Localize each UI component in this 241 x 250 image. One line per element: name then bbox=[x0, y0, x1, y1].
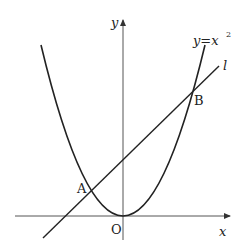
curve-exponent: 2 bbox=[226, 30, 231, 39]
graph-figure: y x O y=x 2 l A B bbox=[0, 0, 241, 250]
y-axis-label: y bbox=[110, 15, 119, 30]
line-l bbox=[43, 66, 219, 238]
point-a-label: A bbox=[76, 181, 87, 196]
point-b-label: B bbox=[194, 93, 204, 108]
curve-label: y=x bbox=[192, 33, 219, 48]
origin-label: O bbox=[111, 222, 122, 237]
x-axis-label: x bbox=[219, 224, 227, 239]
line-label: l bbox=[223, 58, 227, 73]
